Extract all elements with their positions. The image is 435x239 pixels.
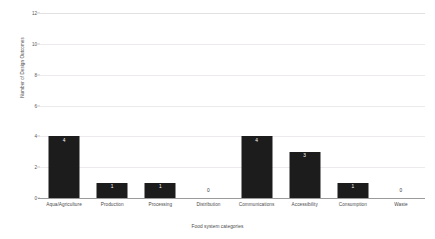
x-axis-tick-label: Production xyxy=(101,202,124,207)
bar-slot: 0 xyxy=(377,13,425,198)
bar-value-label: 3 xyxy=(289,154,320,159)
bar-chart: Number of design outcomes per food syste… xyxy=(0,0,435,239)
bar-value-label: 0 xyxy=(207,189,210,194)
bar[interactable]: 4 xyxy=(241,136,272,198)
plot-area: 024681012 41104310 Aqua/AgricultureProdu… xyxy=(40,13,425,198)
bar[interactable]: 1 xyxy=(97,183,128,198)
bar-slot: 1 xyxy=(329,13,377,198)
bar[interactable]: 3 xyxy=(289,152,320,198)
x-axis-tick-label: Consumption xyxy=(339,202,367,207)
bar-value-label: 4 xyxy=(49,139,80,144)
x-axis-tick-label: Accessibility xyxy=(292,202,318,207)
x-axis-title: Food system categories xyxy=(0,224,435,229)
x-axis-tick-label: Communications xyxy=(239,202,275,207)
bar[interactable]: 1 xyxy=(145,183,176,198)
x-axis-tick-label: Aqua/Agriculture xyxy=(46,202,81,207)
bar-slot: 4 xyxy=(233,13,281,198)
bar-value-label: 1 xyxy=(97,185,128,190)
x-axis-tick-label: Waste xyxy=(394,202,407,207)
x-axis-tick-label: Processing xyxy=(148,202,172,207)
bar-slot: 1 xyxy=(88,13,136,198)
y-axis-title: Number of Design Outcomes xyxy=(20,8,25,128)
x-axis-line xyxy=(38,198,425,199)
bar-slot: 0 xyxy=(184,13,232,198)
bar-slot: 3 xyxy=(281,13,329,198)
bar-value-label: 0 xyxy=(400,189,403,194)
bar-value-label: 1 xyxy=(337,185,368,190)
bar-slot: 4 xyxy=(40,13,88,198)
bar-slot: 1 xyxy=(136,13,184,198)
bar[interactable]: 1 xyxy=(337,183,368,198)
bar[interactable]: 4 xyxy=(49,136,80,198)
bar-value-label: 1 xyxy=(145,185,176,190)
x-axis-tick-label: Distribution xyxy=(196,202,220,207)
bar-value-label: 4 xyxy=(241,139,272,144)
